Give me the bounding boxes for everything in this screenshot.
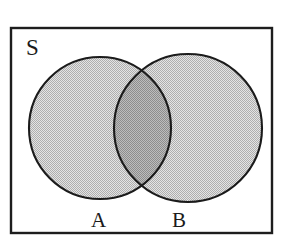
venn-diagram-figure: S A B xyxy=(0,0,289,243)
set-a-label: A xyxy=(91,210,106,231)
universal-set-label: S xyxy=(26,36,39,59)
venn-diagram-canvas xyxy=(0,0,289,243)
set-b-label: B xyxy=(172,210,186,231)
